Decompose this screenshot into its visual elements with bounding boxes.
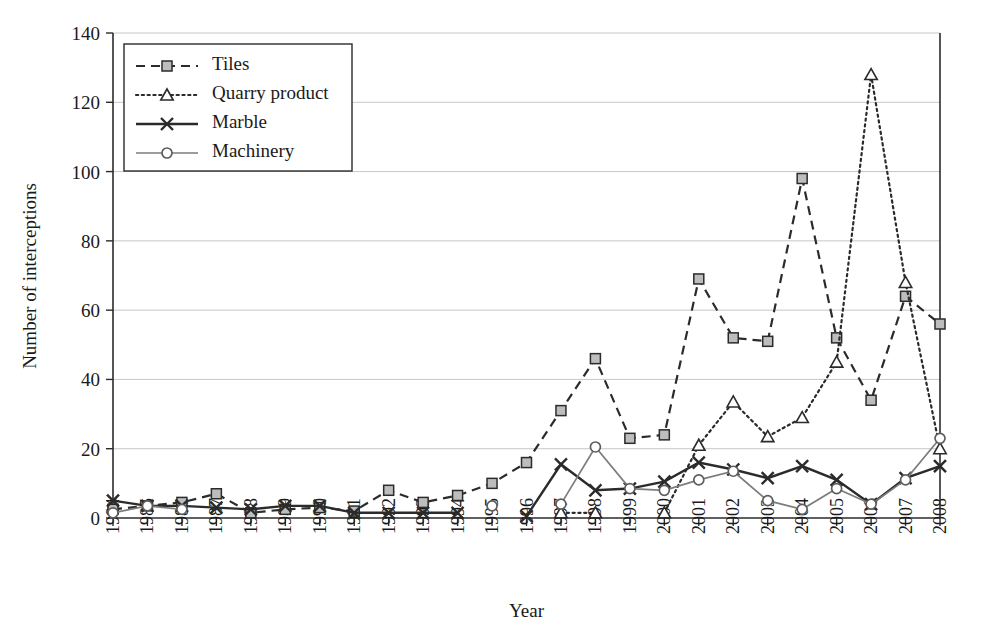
x-axis-tick-label: 1994 [448,498,468,534]
data-point-marker [935,433,945,443]
series-line [664,75,940,513]
data-point-marker [625,433,635,443]
data-point-marker [487,501,497,511]
data-point-marker [830,356,842,367]
x-axis-tick-label: 2007 [896,498,916,534]
data-point-marker [418,497,428,507]
y-axis-tick-label: 120 [72,92,101,113]
y-axis-tick-label: 100 [72,162,101,183]
data-point-marker [763,496,773,506]
legend-swatch-marker [162,61,172,71]
y-axis-tick-label: 140 [72,23,101,44]
legend-entry-label: Marble [212,111,267,132]
y-axis-tick-label: 60 [81,300,100,321]
data-point-marker [384,485,394,495]
data-point-marker [625,484,635,494]
y-axis: 020406080100120140Number of interception… [19,23,113,529]
chart-figure: 020406080100120140Number of interception… [0,0,985,640]
data-point-marker [177,504,187,514]
data-point-marker [796,460,808,472]
data-point-marker [659,485,669,495]
data-point-marker [728,333,738,343]
data-point-marker [901,475,911,485]
legend-entry-label: Tiles [212,53,249,74]
data-point-marker [659,430,669,440]
series-quarry-product [555,69,946,518]
x-axis-tick-label: 1999 [620,498,640,534]
y-axis-tick-label: 0 [91,508,101,529]
data-point-marker [866,395,876,405]
y-axis-tick-label: 80 [81,231,100,252]
x-axis-title: Year [509,600,545,621]
data-point-marker [865,69,877,80]
data-point-marker [796,412,808,423]
legend: TilesQuarry productMarbleMachinery [124,44,352,171]
y-axis-tick-label: 40 [81,369,100,390]
data-point-marker [694,475,704,485]
data-point-marker [142,501,152,511]
data-point-marker [453,490,463,500]
data-point-marker [797,504,807,514]
x-axis-tick-label: 2002 [723,498,743,534]
legend-entry-label: Machinery [212,140,295,161]
data-point-marker [832,484,842,494]
data-point-marker [694,274,704,284]
x-axis-tick-label: 2004 [792,498,812,534]
x-axis-tick-label: 2005 [827,498,847,534]
data-point-marker [211,489,221,499]
data-point-marker [590,442,600,452]
data-point-marker [556,499,566,509]
x-axis-tick-label: 1989 [275,498,295,534]
data-point-marker [866,499,876,509]
interceptions-line-chart: 020406080100120140Number of interception… [0,0,985,640]
data-point-marker [728,466,738,476]
data-point-marker [590,354,600,364]
series-tiles [108,174,945,518]
data-point-marker [935,319,945,329]
data-point-marker [522,458,532,468]
x-axis-tick-label: 2001 [689,498,709,534]
data-point-marker [763,336,773,346]
y-axis-tick-label: 20 [81,439,100,460]
data-point-marker [556,406,566,416]
x-axis-tick-label: 1992 [379,498,399,534]
data-point-marker [487,478,497,488]
data-point-marker [899,276,911,287]
y-axis-title: Number of interceptions [19,183,40,369]
data-point-marker [727,396,739,407]
data-point-marker [555,458,567,470]
data-point-marker [108,508,118,518]
legend-entry-label: Quarry product [212,82,329,103]
x-axis-tick-label: 1987 [206,498,226,534]
legend-swatch-marker [162,148,172,158]
data-point-marker [797,174,807,184]
